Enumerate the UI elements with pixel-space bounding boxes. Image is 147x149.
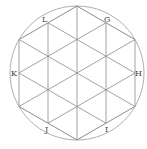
label-J: J [44,125,48,134]
label-G: G [104,15,110,24]
label-K: K [11,69,18,78]
grid-lines [0,0,147,149]
label-L: L [42,15,48,24]
hexagon-grid-diagram: L G K H J I [0,0,147,149]
label-H: H [135,69,142,78]
label-I: I [105,125,108,134]
